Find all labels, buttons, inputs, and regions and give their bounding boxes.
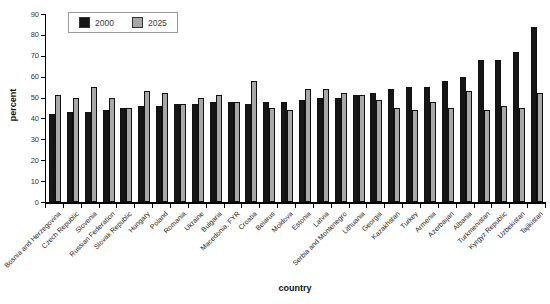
- bar-2025-slovenia: [91, 87, 97, 202]
- x-tick-mark: [170, 204, 171, 208]
- y-tick-mark: [41, 160, 45, 161]
- x-tick-mark: [152, 204, 153, 208]
- x-tick-mark: [81, 204, 82, 208]
- y-tick-mark: [41, 139, 45, 140]
- x-axis-title: country: [45, 283, 545, 293]
- bar-2025-turkey: [412, 110, 418, 202]
- bar-2025-moldova: [287, 110, 293, 202]
- bar-2025-kyrgyz-republic: [501, 106, 507, 202]
- x-tick-mark: [438, 204, 439, 208]
- y-tick-mark: [41, 56, 45, 57]
- bar-2025-romania: [180, 104, 186, 202]
- y-tick-mark: [41, 77, 45, 78]
- y-tick-label: 90: [13, 10, 39, 19]
- bar-2025-slovak-republic: [126, 108, 132, 202]
- bar-2025-uzbekistan: [519, 108, 525, 202]
- bar-2025-lithuania: [359, 95, 365, 202]
- y-tick-label: 40: [13, 114, 39, 123]
- x-tick-mark: [313, 204, 314, 208]
- y-tick-label: 30: [13, 135, 39, 144]
- bar-2025-bulgaria: [216, 95, 222, 202]
- y-tick-mark: [41, 35, 45, 36]
- y-tick-label: 80: [13, 30, 39, 39]
- x-tick-mark: [241, 204, 242, 208]
- bar-2025-croatia: [251, 81, 257, 202]
- bar-2025-czech-republic: [73, 98, 79, 202]
- y-tick-mark: [41, 118, 45, 119]
- x-tick-mark: [491, 204, 492, 208]
- bar-chart: 2000 2025 percent country 01020304050607…: [0, 0, 550, 304]
- bar-2025-estonia: [305, 89, 311, 202]
- bar-2025-albania: [466, 91, 472, 202]
- y-tick-label: 70: [13, 51, 39, 60]
- x-tick-mark: [331, 204, 332, 208]
- bar-2025-poland: [162, 93, 168, 202]
- x-tick-mark: [99, 204, 100, 208]
- x-tick-mark: [206, 204, 207, 208]
- x-tick-mark: [63, 204, 64, 208]
- bar-2025-serbia-and-montenegro: [341, 93, 347, 202]
- x-tick-mark: [384, 204, 385, 208]
- x-tick-mark: [402, 204, 403, 208]
- x-tick-mark: [116, 204, 117, 208]
- bar-2025-armenia: [430, 102, 436, 202]
- x-tick-mark: [45, 204, 46, 208]
- bar-2025-tajikistan: [537, 93, 543, 202]
- y-tick-mark: [41, 98, 45, 99]
- bar-2025-kazakhstan: [394, 108, 400, 202]
- x-tick-mark: [259, 204, 260, 208]
- bar-2025-belarus: [269, 108, 275, 202]
- bar-2025-georgia: [376, 100, 382, 202]
- y-tick-label: 20: [13, 156, 39, 165]
- y-tick-mark: [41, 202, 45, 203]
- x-tick-mark: [224, 204, 225, 208]
- bar-2025-latvia: [323, 89, 329, 202]
- bar-2025-ukraine: [198, 98, 204, 202]
- x-tick-label: Estonia: [290, 210, 312, 232]
- x-tick-mark: [366, 204, 367, 208]
- x-tick-mark: [545, 204, 546, 208]
- bar-2025-russian-federation: [109, 98, 115, 202]
- y-tick-mark: [41, 181, 45, 182]
- y-tick-label: 10: [13, 177, 39, 186]
- y-tick-label: 50: [13, 93, 39, 102]
- x-tick-mark: [474, 204, 475, 208]
- bar-2025-macedonia-fyr: [234, 102, 240, 202]
- bar-2025-azerbaijan: [448, 108, 454, 202]
- bar-2025-hungary: [144, 91, 150, 202]
- x-tick-mark: [420, 204, 421, 208]
- x-tick-mark: [188, 204, 189, 208]
- y-tick-mark: [41, 14, 45, 15]
- x-tick-mark: [349, 204, 350, 208]
- x-tick-mark: [277, 204, 278, 208]
- x-tick-mark: [527, 204, 528, 208]
- x-tick-mark: [509, 204, 510, 208]
- x-tick-mark: [134, 204, 135, 208]
- bar-2025-bosnia-and-herzegovina: [55, 95, 61, 202]
- x-tick-mark: [456, 204, 457, 208]
- plot-area: [45, 14, 546, 204]
- x-tick-mark: [295, 204, 296, 208]
- y-tick-label: 0: [13, 198, 39, 207]
- bar-2025-turkmenistan: [484, 110, 490, 202]
- y-tick-label: 60: [13, 72, 39, 81]
